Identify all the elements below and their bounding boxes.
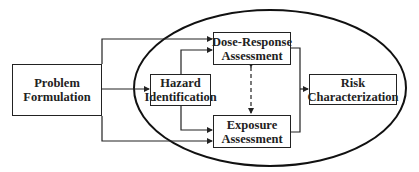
edge-hazard-to-dose [181, 50, 212, 74]
dose-response-node: Dose-Response Assessment [213, 32, 291, 65]
problem-formulation-node: Problem Formulation [12, 64, 102, 116]
node-label-line2: Formulation [23, 90, 90, 104]
exposure-assessment-node: Exposure Assessment [213, 115, 291, 148]
node-label-line1: Risk [341, 76, 365, 90]
risk-characterization-node: Risk Characterization [309, 74, 397, 105]
hazard-identification-node: Hazard Identification [150, 74, 211, 106]
edge-dose-to-risk [291, 48, 300, 132]
node-label-line1: Dose-Response [212, 35, 292, 49]
edge-pf-to-dose [102, 39, 212, 64]
node-label-line2: Characterization [308, 90, 399, 104]
edge-pf-to-exposure [102, 116, 212, 141]
node-label-line2: Assessment [221, 132, 282, 146]
node-label-line2: Identification [144, 90, 216, 104]
edge-hazard-to-exposure [181, 106, 212, 130]
node-label-line1: Exposure [227, 118, 277, 132]
node-label-line1: Hazard [160, 76, 200, 90]
node-label-line2: Assessment [221, 49, 282, 63]
node-label-line1: Problem [34, 76, 80, 90]
